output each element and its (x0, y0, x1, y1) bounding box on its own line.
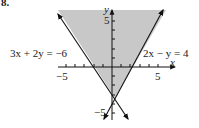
x-tick-label-pos5: 5 (155, 71, 161, 82)
y-tick-label-neg5: −5 (94, 107, 106, 118)
line1-label: 3x + 2y = −6 (10, 48, 67, 59)
y-tick-label-pos5: 5 (104, 15, 110, 26)
x-axis-label: x (170, 57, 175, 68)
line2-label: 2x − y = 4 (143, 48, 188, 59)
x-tick-label-neg5: −5 (56, 71, 68, 82)
